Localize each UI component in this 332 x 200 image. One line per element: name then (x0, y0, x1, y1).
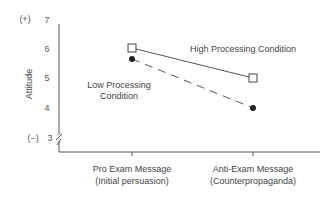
low-processing-label: Low Processing (87, 80, 151, 90)
y-tick-label: 5 (44, 73, 49, 83)
square-marker-icon (128, 44, 136, 52)
y-positive-annotation: (+) (19, 14, 30, 24)
dot-marker-icon (250, 105, 256, 111)
y-negative-annotation: (−) (27, 133, 38, 143)
x-category-label: Pro Exam Message (93, 164, 172, 174)
y-tick-label: 7 (44, 15, 49, 25)
attitude-chart: 7 6 5 4 3 (+) (−) Attitude High Processi… (0, 0, 332, 200)
x-category-label: Anti-Exam Message (213, 164, 294, 174)
square-marker-icon (249, 74, 257, 82)
y-axis-label: Attitude (24, 69, 34, 100)
x-category-label: (Initial persuasion) (95, 176, 169, 186)
high-processing-label: High Processing Condition (190, 44, 296, 54)
x-category-label: (Counterpropaganda) (210, 176, 296, 186)
low-processing-label: Condition (100, 91, 138, 101)
y-tick-label: 6 (44, 44, 49, 54)
dot-marker-icon (129, 56, 135, 62)
y-tick-label: 3 (47, 133, 52, 143)
y-tick-label: 4 (44, 103, 49, 113)
